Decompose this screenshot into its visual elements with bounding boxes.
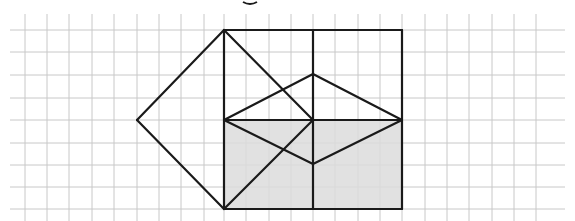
geometry-diagram xyxy=(0,0,575,221)
cropped-heading-fragment xyxy=(243,2,257,4)
diagram-canvas xyxy=(0,0,575,221)
